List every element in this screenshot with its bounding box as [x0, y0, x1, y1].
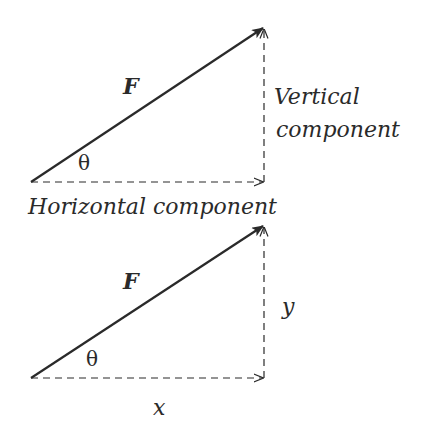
vector-components-figure: F θ Vertical component Horizontal compon…	[0, 0, 429, 444]
bottom-diagram: F θ y x	[31, 226, 295, 420]
x-label: x	[153, 395, 166, 420]
angle-label: θ	[78, 151, 90, 175]
top-diagram: F θ Vertical component Horizontal compon…	[27, 28, 400, 219]
vertical-component-label-line1: Vertical	[274, 84, 360, 109]
angle-label: θ	[86, 347, 98, 371]
vertical-component-label-line2: component	[276, 117, 400, 142]
force-vector-arrow	[31, 226, 263, 378]
horizontal-component-label: Horizontal component	[27, 194, 277, 219]
force-label: F	[122, 73, 140, 99]
force-label: F	[122, 268, 140, 294]
force-vector-arrow	[31, 28, 263, 182]
y-label: y	[281, 294, 295, 319]
